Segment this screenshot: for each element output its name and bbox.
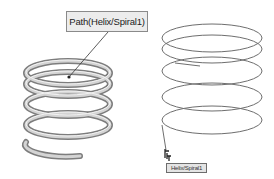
pointer-select-cursor-icon: [163, 148, 177, 162]
graphics-viewport[interactable]: Path(Helix/Spiral1) Helix/Spiral1: [0, 0, 274, 179]
path-callout-label: Path(Helix/Spiral1): [66, 11, 148, 32]
helix-hover-tooltip: Helix/Spiral1: [166, 163, 207, 173]
